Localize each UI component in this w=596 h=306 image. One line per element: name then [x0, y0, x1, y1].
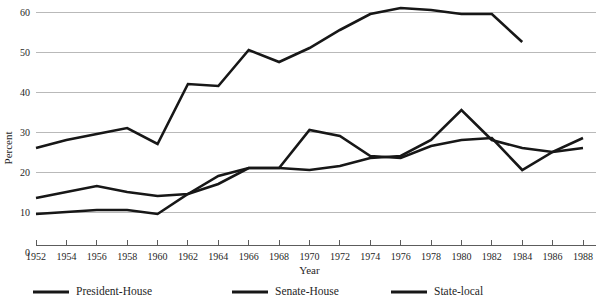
- axes: [36, 240, 596, 245]
- y-tick-label-30: 30: [20, 127, 30, 138]
- x-tick-label-1988: 1988: [573, 251, 593, 262]
- y-tick-label-60: 60: [20, 7, 30, 18]
- x-tick-label-1980: 1980: [451, 251, 471, 262]
- y-axis-title: Percent: [2, 132, 14, 165]
- y-tick-label-50: 50: [20, 47, 30, 58]
- x-tick-label-1970: 1970: [300, 251, 320, 262]
- legend-label-state-local: State-local: [434, 285, 483, 297]
- x-tick-label-1972: 1972: [330, 251, 350, 262]
- x-tick-label-1982: 1982: [482, 251, 502, 262]
- x-tick-label-1974: 1974: [360, 251, 380, 262]
- axis-ticks: [36, 240, 583, 245]
- gridlines: [36, 12, 596, 212]
- chart-canvas: 0102030405060 19521954195619581960196219…: [0, 0, 596, 306]
- x-tick-label-1968: 1968: [269, 251, 289, 262]
- x-tick-label-1966: 1966: [239, 251, 259, 262]
- x-tick-label-1984: 1984: [512, 251, 532, 262]
- x-tick-label-1976: 1976: [391, 251, 411, 262]
- x-tick-label-1960: 1960: [148, 251, 168, 262]
- legend-label-president-house: President-House: [76, 285, 152, 297]
- x-tick-label-1964: 1964: [208, 251, 228, 262]
- y-tick-label-10: 10: [20, 207, 30, 218]
- data-series-group: [36, 8, 583, 214]
- legend-label-senate-house: Senate-House: [275, 285, 339, 297]
- line-chart: 0102030405060 19521954195619581960196219…: [0, 0, 596, 306]
- y-axis-tick-labels: 0102030405060: [20, 7, 30, 258]
- x-axis-tick-labels: 1952195419561958196019621964196619681970…: [26, 251, 593, 262]
- x-tick-label-1986: 1986: [543, 251, 563, 262]
- x-tick-label-1962: 1962: [178, 251, 198, 262]
- x-tick-label-1956: 1956: [87, 251, 107, 262]
- x-tick-label-1952: 1952: [26, 251, 46, 262]
- series-line-president-house: [36, 8, 522, 148]
- y-tick-label-20: 20: [20, 167, 30, 178]
- x-axis-title: Year: [299, 264, 320, 276]
- x-tick-label-1958: 1958: [117, 251, 137, 262]
- series-line-senate-house: [36, 110, 583, 198]
- chart-legend: President-HouseSenate-HouseState-local: [33, 285, 483, 297]
- x-tick-label-1978: 1978: [421, 251, 441, 262]
- y-tick-label-40: 40: [20, 87, 30, 98]
- x-tick-label-1954: 1954: [56, 251, 76, 262]
